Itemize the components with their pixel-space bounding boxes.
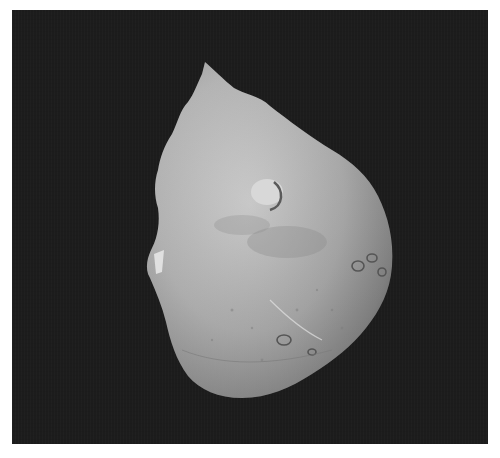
caption-area	[0, 446, 500, 458]
surface-mound	[251, 179, 283, 205]
comet-nucleus	[12, 10, 488, 444]
photo-frame	[12, 10, 488, 444]
